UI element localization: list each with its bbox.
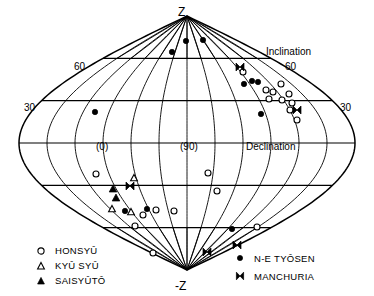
paleomagnetic-projection-figure: Z -Z Inclination Declination 60 30 60 30…: [0, 0, 374, 296]
data-point-open-circle: [278, 81, 284, 87]
declination-tick-90: (90): [180, 136, 198, 154]
legend-item-saisyuto: SAISYÛTÔ: [33, 273, 163, 288]
filled-circle-icon: [232, 252, 248, 264]
data-point-filled-circle: [249, 78, 254, 83]
data-point-bowtie: [233, 241, 241, 249]
data-point-filled-circle: [122, 208, 127, 213]
data-point-open-circle: [254, 224, 260, 230]
data-point-filled-circle: [144, 206, 149, 211]
filled-triangle-icon: [33, 275, 49, 287]
legend-label-saisyuto: SAISYÛTÔ: [55, 275, 105, 286]
open-circle-icon: [33, 245, 49, 257]
data-point-filled-circle: [183, 38, 188, 43]
data-point-open-circle: [286, 91, 292, 97]
legend-item-ne-tyosen: N-E TYÔSEN: [232, 249, 372, 267]
bowtie-icon: [232, 270, 248, 282]
data-point-open-circle: [279, 97, 285, 103]
pole-label-bottom: -Z: [175, 276, 186, 294]
legend-left: HONSYÛ KYÛ SYÛ SAISYÛTÔ: [33, 243, 163, 288]
legend-right: N-E TYÔSEN MANCHURIA: [232, 249, 372, 285]
data-point-bowtie: [126, 182, 134, 190]
data-point-open-circle: [214, 188, 220, 194]
pole-label-top: Z: [178, 2, 185, 20]
data-point-open-circle: [266, 96, 272, 102]
data-point-open-circle: [153, 207, 159, 213]
legend-item-kyusyu: KYÛ SYÛ: [33, 258, 163, 273]
data-point-open-circle: [287, 107, 293, 113]
inclination-tick-right-60: 60: [285, 56, 296, 74]
inclination-tick-right-30: 30: [340, 97, 351, 115]
data-point-bowtie: [236, 63, 244, 71]
legend-label-manchuria: MANCHURIA: [254, 271, 314, 282]
legend-item-honsyu: HONSYÛ: [33, 243, 163, 258]
open-triangle-icon: [33, 260, 49, 272]
data-point-open-circle: [289, 100, 295, 106]
data-point-filled-circle: [229, 226, 234, 231]
data-point-open-circle: [294, 117, 300, 123]
data-point-bowtie: [293, 106, 301, 114]
legend-label-ne-tyosen: N-E TYÔSEN: [254, 253, 315, 264]
legend-label-honsyu: HONSYÛ: [55, 245, 97, 256]
data-point-open-circle: [205, 170, 211, 176]
legend-item-manchuria: MANCHURIA: [232, 267, 372, 285]
data-point-filled-circle: [258, 111, 263, 116]
data-point-filled-circle: [169, 49, 174, 54]
declination-tick-0: (0): [96, 136, 108, 154]
declination-axis-label: Declination: [246, 136, 295, 154]
data-point-open-circle: [171, 208, 177, 214]
data-point-filled-circle: [92, 109, 97, 114]
inclination-tick-left-30: 30: [24, 97, 35, 115]
data-point-filled-circle: [200, 37, 205, 42]
data-point-open-circle: [263, 87, 269, 93]
data-point-filled-circle: [255, 79, 260, 84]
data-point-filled-circle: [241, 81, 246, 86]
data-point-open-triangle: [128, 208, 135, 214]
data-point-filled-triangle: [112, 194, 120, 201]
data-point-open-circle: [140, 212, 146, 218]
legend-label-kyusyu: KYÛ SYÛ: [55, 260, 99, 271]
inclination-tick-left-60: 60: [74, 56, 85, 74]
data-point-open-circle: [270, 89, 276, 95]
data-point-open-circle: [93, 171, 99, 177]
data-point-open-circle: [132, 223, 138, 229]
